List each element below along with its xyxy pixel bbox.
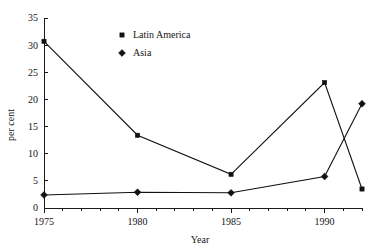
data-point bbox=[228, 189, 235, 196]
series-asia bbox=[41, 100, 366, 198]
data-point bbox=[135, 133, 139, 137]
y-tick-label: 0 bbox=[33, 202, 38, 213]
x-axis-title: Year bbox=[191, 234, 210, 245]
y-axis-title: per cent bbox=[5, 109, 16, 141]
data-point bbox=[321, 173, 328, 180]
y-tick-label: 5 bbox=[33, 175, 38, 186]
series-line bbox=[44, 41, 362, 189]
series-line bbox=[44, 104, 362, 195]
data-point bbox=[134, 189, 141, 196]
line-chart: 05101520253035 1975198019851990 Latin Am… bbox=[0, 0, 378, 249]
y-tick-label: 20 bbox=[28, 94, 38, 105]
axis-lines bbox=[44, 18, 362, 208]
y-tick-label: 15 bbox=[28, 121, 38, 132]
x-tick-label: 1990 bbox=[315, 216, 335, 227]
data-series bbox=[41, 39, 366, 198]
data-point bbox=[359, 100, 366, 107]
x-axis-tick-labels: 1975198019851990 bbox=[34, 216, 335, 227]
chart-legend: Latin AmericaAsia bbox=[119, 29, 191, 58]
y-tick-label: 35 bbox=[28, 12, 38, 23]
data-point bbox=[322, 81, 326, 85]
y-axis-tick-labels: 05101520253035 bbox=[28, 12, 38, 213]
y-tick-label: 10 bbox=[28, 148, 38, 159]
x-tick-label: 1985 bbox=[221, 216, 241, 227]
data-point bbox=[41, 192, 48, 199]
x-tick-label: 1975 bbox=[34, 216, 54, 227]
legend-marker-square bbox=[120, 33, 124, 37]
y-tick-label: 30 bbox=[28, 40, 38, 51]
legend-marker-diamond bbox=[119, 50, 126, 57]
series-latin-america bbox=[42, 39, 364, 191]
data-point bbox=[229, 172, 233, 176]
data-point bbox=[360, 187, 364, 191]
x-tick-label: 1980 bbox=[128, 216, 148, 227]
tick-marks bbox=[44, 18, 362, 213]
legend-label: Asia bbox=[133, 47, 152, 58]
legend-label: Latin America bbox=[133, 29, 191, 40]
y-tick-label: 25 bbox=[28, 67, 38, 78]
axes bbox=[44, 18, 362, 208]
chart-figure: 05101520253035 1975198019851990 Latin Am… bbox=[0, 0, 378, 249]
data-point bbox=[42, 39, 46, 43]
